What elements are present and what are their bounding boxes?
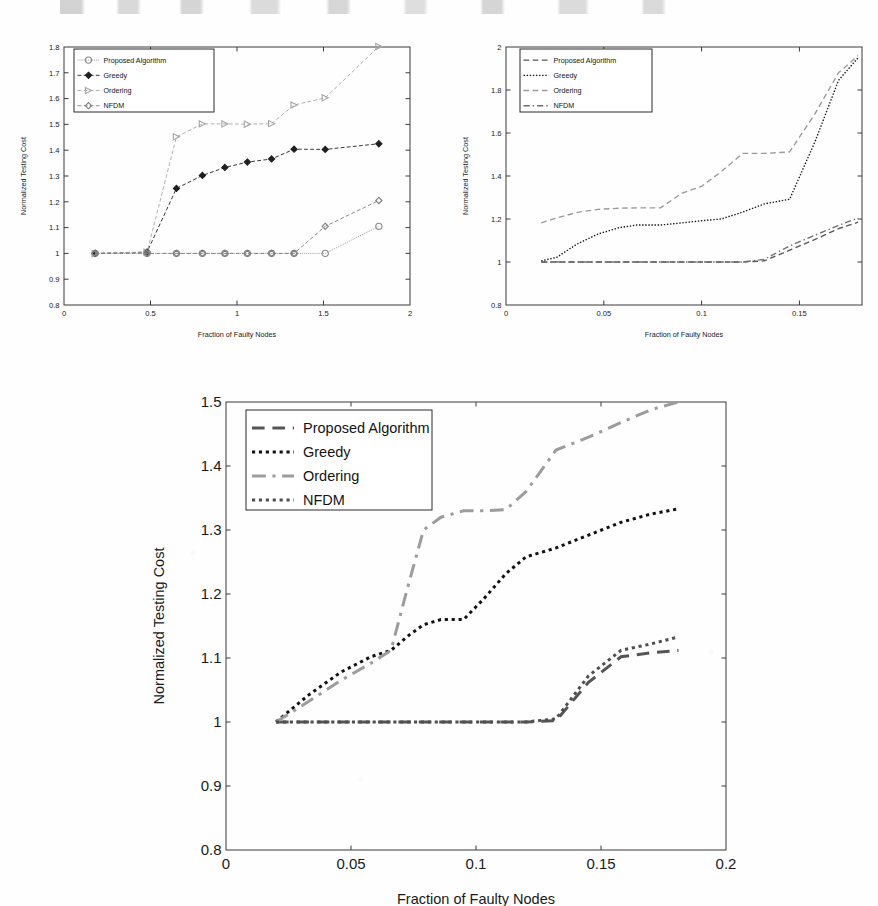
y-axis-label: Normalized Testing Cost	[151, 548, 167, 705]
data-point-marker	[244, 159, 250, 165]
chart-svg: 00.050.10.150.20.80.911.11.21.31.41.5Fra…	[140, 382, 742, 906]
x-tick-label: 0.2	[716, 855, 737, 872]
x-tick-label: 1.5	[318, 309, 329, 318]
data-point-marker	[291, 146, 297, 152]
data-point-marker	[173, 185, 179, 191]
x-tick-label: 0.15	[586, 855, 615, 872]
y-tick-label: 2	[497, 43, 501, 52]
chart-bottom: 00.050.10.150.20.80.911.11.21.31.41.5Fra…	[140, 382, 742, 906]
y-tick-label: 1.8	[49, 43, 60, 52]
page-top-text-fragment	[60, 0, 760, 14]
y-tick-label: 1.6	[491, 129, 502, 138]
x-axis-label: Fraction of Faulty Nodes	[645, 330, 724, 339]
series-line	[95, 226, 379, 253]
data-point-marker	[269, 156, 275, 162]
series-line	[541, 222, 858, 262]
y-tick-label: 1	[497, 258, 501, 267]
series-line	[276, 637, 679, 722]
x-tick-label: 0.05	[336, 855, 365, 872]
data-point-marker	[199, 172, 205, 178]
legend-label: Greedy	[303, 444, 351, 460]
chart-top-right: 00.050.10.150.811.21.41.61.82Fraction of…	[446, 34, 870, 339]
x-axis-label: Fraction of Faulty Nodes	[397, 891, 555, 906]
chart-legend: Proposed AlgorithmGreedyOrderingNFDM	[246, 410, 432, 510]
series-line	[276, 509, 679, 722]
figure-page: 00.511.520.80.911.11.21.31.41.51.61.71.8…	[0, 0, 878, 906]
y-tick-label: 1.8	[491, 86, 502, 95]
y-tick-label: 1.1	[201, 649, 222, 666]
data-point-marker	[199, 121, 205, 127]
y-tick-label: 0.8	[49, 301, 60, 310]
legend-label: NFDM	[554, 101, 575, 110]
chart-legend: Proposed AlgorithmGreedyOrderingNFDM	[74, 49, 214, 112]
data-point-marker	[322, 146, 328, 152]
x-tick-label: 0	[222, 855, 230, 872]
x-axis-label: Fraction of Faulty Nodes	[198, 330, 277, 339]
legend-label: Ordering	[303, 468, 359, 484]
legend-label: Proposed Algorithm	[303, 420, 430, 436]
legend-label: NFDM	[303, 492, 345, 508]
y-axis-label: Normalized Testing Cost	[461, 137, 470, 215]
x-tick-label: 0.05	[596, 309, 611, 318]
y-tick-label: 1.3	[49, 172, 60, 181]
x-tick-label: 2	[408, 309, 412, 318]
x-tick-label: 0.15	[792, 309, 807, 318]
legend-label: NFDM	[104, 101, 125, 110]
y-tick-label: 1.4	[49, 146, 60, 155]
data-point-marker	[222, 164, 228, 170]
y-tick-label: 0.8	[491, 301, 502, 310]
chart-top-left: 00.511.520.80.911.11.21.31.41.51.61.71.8…	[8, 34, 418, 339]
y-tick-label: 1.5	[201, 393, 222, 410]
series-line	[95, 144, 379, 254]
y-tick-label: 1.7	[49, 69, 60, 78]
y-tick-label: 1	[213, 713, 221, 730]
y-tick-label: 1.4	[491, 172, 502, 181]
y-tick-label: 1.2	[49, 198, 60, 207]
y-tick-label: 0.9	[201, 777, 222, 794]
series-line	[541, 218, 858, 262]
y-axis-label: Normalized Testing Cost	[19, 137, 28, 215]
y-tick-label: 1.2	[201, 585, 222, 602]
chart-legend: Proposed AlgorithmGreedyOrderingNFDM	[520, 49, 652, 112]
x-tick-label: 0	[62, 309, 66, 318]
y-tick-label: 0.8	[201, 841, 222, 858]
data-point-marker	[173, 134, 179, 140]
legend-label: Ordering	[104, 86, 132, 95]
y-tick-label: 1.4	[201, 457, 222, 474]
y-tick-label: 1.2	[491, 215, 502, 224]
x-tick-label: 0	[504, 309, 508, 318]
x-tick-label: 0.5	[145, 309, 156, 318]
x-tick-label: 0.1	[466, 855, 487, 872]
legend-label: Greedy	[104, 71, 128, 80]
series-line	[276, 650, 679, 722]
y-tick-label: 1.6	[49, 94, 60, 103]
legend-label: Greedy	[554, 71, 578, 80]
data-point-marker	[291, 102, 297, 108]
y-tick-label: 1	[55, 249, 59, 258]
y-tick-label: 1.5	[49, 120, 60, 129]
series-line	[95, 201, 379, 254]
x-tick-label: 0.1	[696, 309, 707, 318]
y-tick-label: 0.9	[49, 275, 60, 284]
chart-svg: 00.050.10.150.811.21.41.61.82Fraction of…	[446, 34, 870, 339]
y-tick-label: 1.3	[201, 521, 222, 538]
chart-svg: 00.511.520.80.911.11.21.31.41.51.61.71.8…	[8, 34, 418, 339]
legend-label: Ordering	[554, 86, 582, 95]
x-tick-label: 1	[235, 309, 239, 318]
legend-label: Proposed Algorithm	[104, 56, 167, 65]
legend-label: Proposed Algorithm	[554, 56, 617, 65]
data-point-marker	[376, 197, 382, 203]
y-tick-label: 1.1	[49, 223, 60, 232]
data-point-marker	[376, 141, 382, 147]
